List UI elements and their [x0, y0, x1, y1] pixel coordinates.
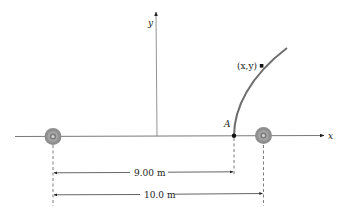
y-axis — [156, 12, 157, 136]
dimension-9m-label: 9.00 m — [134, 168, 166, 178]
diagram-canvas: x y A (x,y) 9.00 m 10.0 m — [0, 0, 340, 216]
point-a-label: A — [223, 119, 231, 129]
left-speaker-icon — [45, 128, 62, 145]
right-speaker-icon — [255, 127, 272, 144]
x-axis-label: x — [328, 131, 333, 141]
dimension-10m-label: 10.0 m — [144, 190, 176, 200]
y-axis-label: y — [147, 18, 154, 28]
point-xy-dot — [260, 64, 264, 68]
point-xy-label: (x,y) — [237, 61, 257, 71]
point-a-dot — [232, 134, 236, 138]
dimension-10m-right — [174, 194, 263, 195]
